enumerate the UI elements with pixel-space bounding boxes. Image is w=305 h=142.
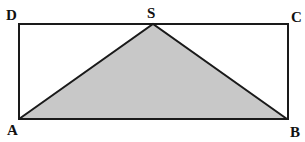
geometry-diagram: D S C A B [0, 0, 305, 142]
label-c: C [291, 9, 302, 25]
label-a: A [7, 122, 18, 138]
label-s: S [147, 5, 155, 21]
label-d: D [6, 7, 17, 23]
label-b: B [290, 124, 300, 140]
triangle-asb [19, 24, 287, 119]
